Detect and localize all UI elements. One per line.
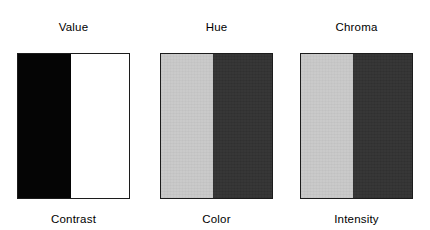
swatch-half-right-dark-gray: [213, 54, 272, 198]
swatch-half-right-white: [71, 54, 129, 198]
swatch-half-left-light-gray: [161, 54, 213, 198]
panel-group-value-contrast: Value Contrast: [17, 20, 130, 226]
panel-group-hue-color: Hue Color: [160, 20, 273, 226]
panel-bottom-label-intensity: Intensity: [334, 212, 379, 226]
panel-top-label-chroma: Chroma: [335, 20, 377, 34]
swatch-chroma-intensity: [300, 53, 413, 199]
panel-bottom-label-contrast: Contrast: [51, 212, 96, 226]
swatch-value-contrast: [17, 53, 130, 199]
panel-top-label-value: Value: [59, 20, 89, 34]
color-terminology-figure: Value Contrast Hue Color Chroma Intensit…: [0, 0, 430, 230]
panel-bottom-label-color: Color: [202, 212, 230, 226]
swatch-half-right-dark-gray: [353, 54, 412, 198]
panel-top-label-hue: Hue: [206, 20, 228, 34]
swatch-hue-color: [160, 53, 273, 199]
swatch-half-left-black: [18, 54, 71, 198]
swatch-half-left-light-gray: [301, 54, 353, 198]
panel-group-chroma-intensity: Chroma Intensity: [300, 20, 413, 226]
